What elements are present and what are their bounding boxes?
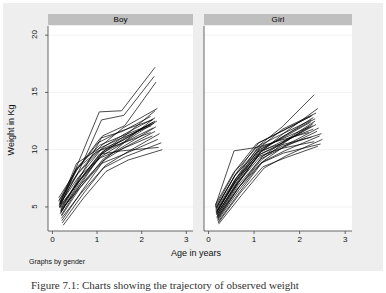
graphs-by-note: Graphs by gender bbox=[29, 258, 85, 265]
x-tick-label: 0 bbox=[45, 235, 59, 244]
y-axis-title: Weight in Kg bbox=[6, 98, 16, 162]
panel-girl bbox=[204, 26, 352, 234]
y-tick-label: 10 bbox=[30, 141, 39, 157]
x-tick-label: 1 bbox=[247, 235, 261, 244]
panel-boy bbox=[45, 26, 193, 234]
x-tick-label: 2 bbox=[135, 235, 149, 244]
figure-root: Boy Girl Weight in Kg Age in years Graph… bbox=[0, 0, 386, 293]
panel-header-boy: Boy bbox=[48, 14, 193, 25]
panel-plot-background bbox=[48, 26, 193, 231]
x-tick-label: 1 bbox=[90, 235, 104, 244]
y-tick-label: 20 bbox=[30, 27, 39, 43]
x-tick-label: 3 bbox=[179, 235, 193, 244]
y-tick-label: 15 bbox=[30, 84, 39, 100]
figure-caption: Figure 7.1: Charts showing the trajector… bbox=[31, 279, 361, 293]
x-tick-label: 2 bbox=[293, 235, 307, 244]
panel-header-girl: Girl bbox=[204, 14, 352, 25]
y-tick-label: 5 bbox=[30, 198, 39, 214]
x-tick-label: 3 bbox=[338, 235, 352, 244]
x-axis-title: Age in years bbox=[131, 248, 261, 258]
x-tick-label: 0 bbox=[202, 235, 216, 244]
